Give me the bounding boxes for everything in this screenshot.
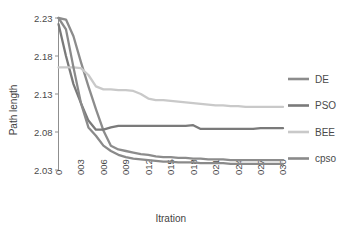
y-tick-label: 2.18 <box>34 51 53 62</box>
y-tick-label: 2.03 <box>34 165 53 176</box>
legend-label-cpso: cpso <box>315 153 337 164</box>
legend-label-bee: BEE <box>315 127 335 138</box>
x-tick-label: 006 <box>98 159 109 175</box>
x-tick-label: 009 <box>120 159 131 175</box>
legend-label-de: DE <box>315 74 329 85</box>
x-tick-label: 027 <box>255 159 266 175</box>
y-tick-label: 2.08 <box>34 127 53 138</box>
y-tick-label: 2.23 <box>34 13 53 24</box>
line-chart: 2.232.182.132.082.03 0003006009012015018… <box>0 0 349 236</box>
y-axis-title: Path length <box>8 85 19 136</box>
x-axis-title: Itration <box>155 213 186 224</box>
x-tick-label: 021 <box>210 159 221 175</box>
x-tick-label: 030 <box>277 159 288 175</box>
legend-label-pso: PSO <box>315 100 336 111</box>
x-tick-label: 003 <box>75 159 86 175</box>
y-tick-label: 2.13 <box>34 89 53 100</box>
chart-background <box>0 0 349 236</box>
x-tick-label: 0 <box>53 170 64 175</box>
chart-canvas: 2.232.182.132.082.03 0003006009012015018… <box>0 0 349 236</box>
x-tick-label: 024 <box>233 159 244 175</box>
